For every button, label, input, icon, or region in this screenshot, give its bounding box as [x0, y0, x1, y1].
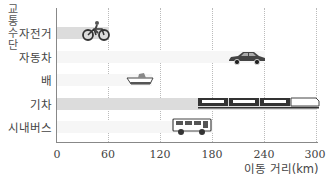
boat-icon [126, 72, 154, 86]
x-tick-0: 0 [54, 148, 61, 161]
car-icon [228, 51, 266, 65]
x-axis-label: 이동 거리(km) [244, 160, 319, 176]
x-tick-120: 120 [150, 148, 171, 161]
y-axis-label: 교 통 수 단 [6, 4, 20, 52]
train-icon [198, 96, 320, 110]
category-car: 자동차 [19, 49, 52, 65]
category-bus: 시내버스 [8, 119, 52, 135]
bicycle-icon [82, 20, 110, 42]
category-bicycle: 자전거 [19, 25, 52, 41]
x-tick-180: 180 [202, 148, 223, 161]
gridline-240 [264, 8, 265, 142]
gridline-300 [316, 8, 317, 142]
category-boat: 배 [41, 72, 52, 88]
bus-icon [172, 118, 214, 136]
distance-chart: 교 통 수 단 자전거 자동차 배 기차 시내버스 [0, 0, 332, 179]
category-train: 기차 [30, 96, 52, 112]
y-axis [56, 8, 57, 142]
x-axis [56, 142, 318, 143]
y-label-char: 단 [6, 40, 20, 52]
x-tick-60: 60 [101, 148, 115, 161]
